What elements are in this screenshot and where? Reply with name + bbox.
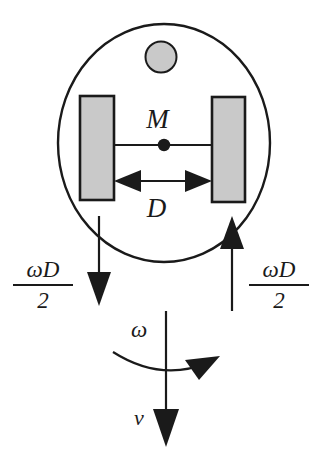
left-wheel-velocity-arrowhead	[87, 272, 111, 306]
left-wheel-speed-fraction: ωD 2	[13, 258, 73, 312]
right-fraction-bar	[249, 284, 309, 286]
left-wheel-speed-numerator: ωD	[13, 258, 73, 283]
wheel-separation-label: D	[0, 193, 315, 224]
linear-velocity-label: v	[134, 405, 144, 431]
caster-wheel	[146, 42, 177, 73]
right-wheel-speed-denominator: 2	[249, 288, 309, 312]
angular-velocity-label: ω	[131, 317, 147, 343]
linear-velocity-arrowhead	[153, 409, 179, 447]
left-wheel-speed-denominator: 2	[13, 288, 73, 312]
kinematics-diagram-figure: M D ω v ωD 2 ωD 2	[0, 0, 317, 466]
diagram-canvas	[0, 0, 317, 466]
center-of-mass-label: M	[0, 104, 316, 135]
left-fraction-bar	[13, 284, 73, 286]
center-of-mass-hub	[158, 139, 170, 151]
right-wheel-speed-fraction: ωD 2	[249, 258, 309, 312]
right-wheel-speed-numerator: ωD	[249, 258, 309, 283]
